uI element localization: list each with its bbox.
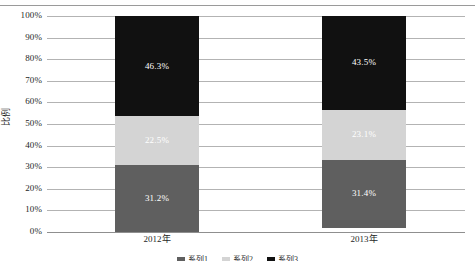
bar-segment-data-label: 43.5% [352, 58, 376, 67]
legend-label: 系列3 [278, 256, 298, 261]
bar-segment[interactable]: 22.5% [115, 116, 199, 165]
bar-segment-data-label: 46.3% [145, 62, 169, 71]
stacked-bar[interactable]: 43.5%23.1%31.4% [322, 16, 406, 232]
chart-top-border [0, 5, 475, 6]
y-axis-tick-label: 50% [0, 119, 42, 128]
y-axis-tick-label: 0% [0, 227, 42, 236]
y-axis-tick-label: 100% [0, 11, 42, 20]
bar-segment[interactable]: 31.2% [115, 165, 199, 232]
bar-segment-data-label: 31.2% [145, 194, 169, 203]
y-axis-tick-label: 20% [0, 184, 42, 193]
legend-swatch-icon [222, 257, 230, 261]
chart-legend: 系列1系列2系列3 [0, 253, 475, 261]
bar-segment-data-label: 22.5% [145, 136, 169, 145]
legend-label: 系列2 [233, 256, 253, 261]
legend-item[interactable]: 系列3 [267, 256, 298, 261]
legend-swatch-icon [177, 257, 185, 261]
gridline [47, 232, 465, 233]
y-axis-tick-label: 30% [0, 162, 42, 171]
legend-item[interactable]: 系列1 [177, 256, 208, 261]
y-axis-tick-label: 10% [0, 205, 42, 214]
y-axis-tick-label: 40% [0, 141, 42, 150]
y-axis-tick-label: 80% [0, 54, 42, 63]
bar-segment[interactable]: 23.1% [322, 110, 406, 160]
y-axis-tick-label: 90% [0, 33, 42, 42]
y-axis-tick-label: 70% [0, 76, 42, 85]
legend-label: 系列1 [188, 256, 208, 261]
bar-segment-data-label: 23.1% [352, 130, 376, 139]
legend-swatch-icon [267, 257, 275, 261]
bar-segment[interactable]: 31.4% [322, 160, 406, 228]
x-axis-category-label: 2012年 [115, 234, 199, 244]
bar-segment[interactable]: 43.5% [322, 16, 406, 110]
stacked-column-chart: 比例 100%90%80%70%60%50%40%30%20%10%0% 46.… [0, 0, 475, 261]
stacked-bar[interactable]: 46.3%22.5%31.2% [115, 16, 199, 232]
x-axis-category-label: 2013年 [322, 234, 406, 244]
legend-item[interactable]: 系列2 [222, 256, 253, 261]
bar-segment-data-label: 31.4% [352, 189, 376, 198]
bar-segment[interactable]: 46.3% [115, 16, 199, 116]
y-axis-tick-label: 60% [0, 97, 42, 106]
